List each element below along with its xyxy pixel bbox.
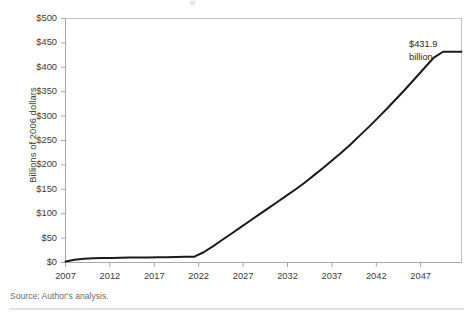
y-tick-label-150: $150 <box>13 184 57 194</box>
y-tick-label-500: $500 <box>13 13 57 23</box>
y-tick-label-200: $200 <box>13 159 57 169</box>
bottom-divider <box>9 308 464 310</box>
line-chart-svg <box>0 0 474 285</box>
x-tick-label-2042: 2042 <box>355 271 397 281</box>
x-tick-label-2032: 2032 <box>267 271 309 281</box>
plot-frame <box>65 19 462 263</box>
chart-area: Billions of 2006 dollars $500 $450 $400 … <box>0 0 474 285</box>
x-tick-label-2037: 2037 <box>311 271 353 281</box>
x-tick-label-2017: 2017 <box>133 271 175 281</box>
y-tick-label-450: $450 <box>13 37 57 47</box>
data-series-line <box>66 52 462 262</box>
source-note: Source: Author's analysis. <box>10 291 109 301</box>
annotation-value: $431.9 <box>409 38 437 51</box>
x-tick-label-2047: 2047 <box>400 271 442 281</box>
y-tick-label-400: $400 <box>13 62 57 72</box>
annotation-unit: billion <box>409 51 437 64</box>
x-tick-label-2027: 2027 <box>222 271 264 281</box>
x-tick-label-2022: 2022 <box>178 271 220 281</box>
y-tick-label-250: $250 <box>13 135 57 145</box>
y-tick-label-300: $300 <box>13 111 57 121</box>
figure-container: Billions of 2006 dollars $500 $450 $400 … <box>0 0 474 318</box>
y-tick-label-350: $350 <box>13 86 57 96</box>
endpoint-annotation: $431.9 billion <box>409 38 437 63</box>
y-tick-label-0: $0 <box>13 257 57 267</box>
x-axis <box>65 263 462 268</box>
y-axis <box>61 18 66 263</box>
y-tick-label-50: $50 <box>13 233 57 243</box>
x-tick-label-2012: 2012 <box>89 271 131 281</box>
y-tick-label-100: $100 <box>13 208 57 218</box>
x-tick-label-2007: 2007 <box>45 271 87 281</box>
